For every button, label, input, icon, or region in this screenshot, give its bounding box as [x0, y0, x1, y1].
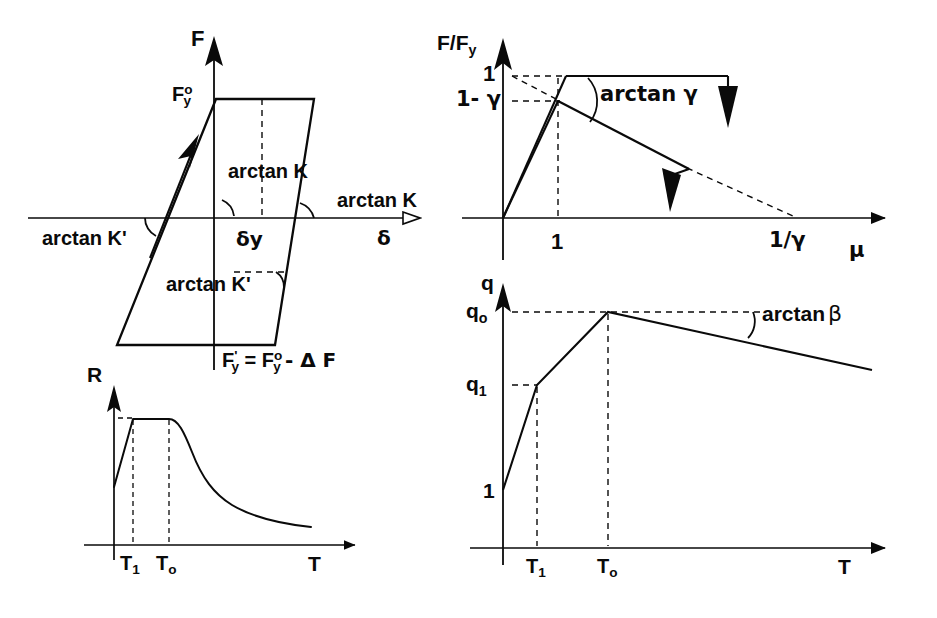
q1-sub: 1: [479, 383, 487, 399]
degrading-branch: [558, 101, 689, 169]
q-x-tick-T1: T1: [526, 556, 546, 580]
degrading-extension-dashed: [687, 168, 795, 217]
ffy-base: F/F: [437, 31, 469, 54]
q-y-tick-base: 1: [483, 480, 495, 501]
q1-base: q: [466, 372, 479, 395]
fy-prime-equation: F'y = Foy- Δ F: [222, 349, 336, 374]
R-x-axis-label: T: [308, 553, 321, 574]
R-T0-sub: o: [168, 562, 176, 577]
fy-sub: y: [184, 93, 192, 108]
fy-base: F: [172, 83, 184, 105]
angle-arc-arctanKprime-left: [145, 218, 156, 236]
eq-mid-sub: y: [273, 359, 281, 374]
q-x-tick-T0: To: [597, 556, 618, 580]
R-T0-base: T: [156, 552, 168, 574]
q-x-axis-label: T: [838, 556, 851, 577]
q-T1-sub: 1: [538, 565, 546, 580]
ffy-sub: y: [469, 42, 477, 58]
R-T1-sub: 1: [132, 562, 140, 577]
arctan-k-label-upper: arctan K: [228, 161, 308, 181]
beta-symbol: β: [828, 301, 842, 326]
q-y-axis-label: q: [481, 272, 494, 293]
angle-arc-arctan-beta: [748, 312, 755, 338]
technical-figure: F Foy δy δ arctan K arctan K arctan K' a…: [0, 0, 937, 618]
normalized-panel: [462, 38, 885, 260]
arctan-beta-label: arctanβ: [762, 303, 842, 325]
angle-arc-arctan-gamma: [588, 78, 597, 122]
q0-base: q: [466, 299, 479, 322]
hysteresis-y-axis-label: F: [191, 28, 204, 50]
arctan-gamma-label: arctan γ: [600, 84, 698, 105]
damage-R-panel: [84, 385, 355, 560]
damage-q-panel: [470, 283, 885, 565]
eq-rhs: - Δ F: [285, 348, 336, 372]
arctan-kprime-label-lower: arctan K': [166, 274, 251, 294]
normalized-y-tick-1: 1: [483, 63, 495, 85]
plateau-arrow-head: [718, 86, 738, 128]
eq-lhs-sub: y: [231, 359, 239, 374]
normalized-y-axis-label: F/Fy: [437, 32, 476, 57]
angle-arc-arctanK-upper: [222, 200, 234, 216]
hysteresis-loop-path: [117, 99, 314, 345]
R-curve: [114, 419, 311, 527]
R-y-axis-label: R: [87, 364, 102, 385]
R-x-tick-T0: To: [156, 553, 177, 577]
delta-y-tick-label: δy: [236, 229, 263, 249]
arctan-beta-word: arctan: [762, 302, 825, 325]
normalized-x-tick-1: 1: [551, 231, 563, 253]
q-y-tick-q0: qo: [466, 300, 488, 325]
normalized-x-axis-label: μ: [849, 240, 864, 261]
angle-arc-arctanKprime-lower: [276, 272, 284, 288]
q-T0-sub: o: [609, 565, 617, 580]
R-x-tick-T1: T1: [120, 553, 140, 577]
hysteresis-x-axis-label: δ: [377, 228, 391, 248]
angle-arc-arctanK-right: [300, 203, 314, 218]
degrading-arrow-head: [662, 168, 681, 212]
eq-mid: = F: [239, 349, 274, 371]
normalized-x-tick-1-over-gamma: 1/γ: [769, 230, 806, 251]
loop-direction-leader: [150, 152, 192, 258]
q-T0-base: T: [597, 555, 609, 577]
elastic-branch-to-knee: [503, 101, 558, 218]
arctan-kprime-label-left: arctan K': [42, 228, 127, 248]
fy-upper-tick-label: Foy: [172, 83, 191, 108]
q0-sub: o: [479, 310, 488, 326]
q-curve: [503, 312, 872, 490]
q-y-tick-q1: q1: [466, 373, 487, 398]
arctan-k-label-right: arctan K: [337, 190, 417, 210]
R-T1-base: T: [120, 552, 132, 574]
normalized-y-tick-1-minus-gamma: 1- γ: [456, 89, 501, 110]
q-T1-base: T: [526, 555, 538, 577]
origin-to-knee-dashed: [512, 76, 558, 100]
